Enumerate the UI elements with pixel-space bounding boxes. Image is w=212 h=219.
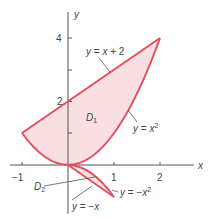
label-y-equals-x-squared: y = x2	[132, 122, 158, 134]
label-y-equals-x-plus-2: y = x + 2	[85, 46, 125, 57]
y-axis-label: y	[73, 9, 80, 20]
label-y-equals-neg-x-squared: y = −x2	[119, 186, 151, 198]
region-diagram: y x 4 2 −1 1 2 y = x + 2 y = x2 y = −x y…	[0, 0, 212, 219]
region-d2-label: D2	[34, 181, 45, 193]
x-tick-label-2: 2	[157, 172, 163, 183]
y-tick-label-4: 4	[56, 33, 62, 44]
y-tick-label-2: 2	[57, 96, 63, 107]
x-axis-label: x	[197, 160, 204, 171]
x-tick-label-neg1: −1	[12, 172, 24, 183]
label-y-equals-neg-x: y = −x	[71, 201, 100, 212]
x-tick-label-1: 1	[111, 172, 117, 183]
curve-y-equals-neg-x	[68, 165, 114, 197]
region-d1-fill	[22, 38, 160, 165]
